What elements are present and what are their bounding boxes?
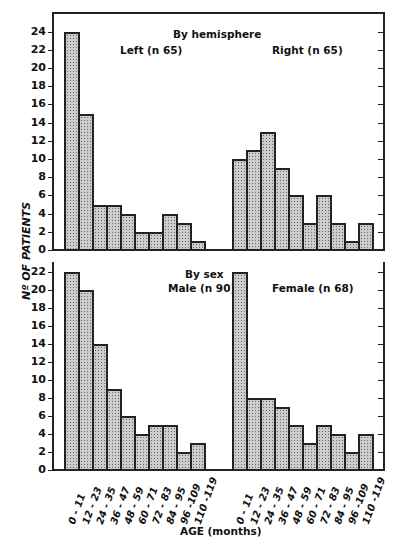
y-tick-mark xyxy=(48,141,53,142)
x-axis-label: AGE (months) xyxy=(180,525,262,537)
y-tick-mark xyxy=(48,32,53,33)
male-series-label: Male (n 90) xyxy=(168,282,235,294)
y-tick-mark xyxy=(48,104,53,105)
right-tick-mark xyxy=(378,470,383,471)
right-tick-mark xyxy=(378,434,383,435)
right-tick-mark xyxy=(378,452,383,453)
bar-sex-male-110-119 xyxy=(190,443,206,471)
right-tick-mark xyxy=(378,68,383,69)
right-tick-mark xyxy=(378,272,383,273)
y-tick-label: 4 xyxy=(20,208,46,219)
y-tick-label: 12 xyxy=(20,356,46,367)
y-tick-label: 22 xyxy=(20,266,46,277)
right-series-label: Right (n 65) xyxy=(272,44,343,56)
right-tick-mark xyxy=(378,141,383,142)
right-tick-mark xyxy=(378,50,383,51)
bottom-title: By sex xyxy=(185,268,224,280)
y-tick-label: 16 xyxy=(20,98,46,109)
y-tick-label: 20 xyxy=(20,62,46,73)
y-tick-mark xyxy=(48,398,53,399)
y-tick-mark xyxy=(48,214,53,215)
y-tick-label: 18 xyxy=(20,302,46,313)
y-tick-mark xyxy=(48,434,53,435)
right-tick-mark xyxy=(378,416,383,417)
y-tick-label: 6 xyxy=(20,189,46,200)
y-tick-mark xyxy=(48,362,53,363)
top-title: By hemisphere xyxy=(173,28,261,40)
y-tick-label: 20 xyxy=(20,284,46,295)
y-tick-mark xyxy=(48,86,53,87)
female-series-label: Female (n 68) xyxy=(272,282,354,294)
y-tick-mark xyxy=(48,68,53,69)
y-tick-label: 12 xyxy=(20,135,46,146)
right-tick-mark xyxy=(378,290,383,291)
y-tick-label: 14 xyxy=(20,338,46,349)
y-tick-label: 0 xyxy=(20,464,46,475)
right-tick-mark xyxy=(378,232,383,233)
right-tick-mark xyxy=(378,159,383,160)
right-tick-mark xyxy=(378,250,383,251)
bar-sex-female-110-119 xyxy=(358,434,374,471)
y-tick-label: 16 xyxy=(20,320,46,331)
y-tick-label: 14 xyxy=(20,117,46,128)
right-tick-mark xyxy=(378,104,383,105)
right-tick-mark xyxy=(378,177,383,178)
y-tick-mark xyxy=(48,470,53,471)
right-tick-mark xyxy=(378,362,383,363)
right-tick-mark xyxy=(378,195,383,196)
y-tick-mark xyxy=(48,123,53,124)
y-tick-mark xyxy=(48,452,53,453)
y-tick-label: 8 xyxy=(20,171,46,182)
y-tick-mark xyxy=(48,195,53,196)
y-tick-mark xyxy=(48,232,53,233)
y-tick-mark xyxy=(48,250,53,251)
bar-hemisphere-left-110-119 xyxy=(190,241,206,251)
y-tick-mark xyxy=(48,50,53,51)
right-tick-mark xyxy=(378,214,383,215)
right-tick-mark xyxy=(378,86,383,87)
y-tick-mark xyxy=(48,380,53,381)
y-tick-label: 24 xyxy=(20,26,46,37)
y-tick-mark xyxy=(48,177,53,178)
left-series-label: Left (n 65) xyxy=(120,44,182,56)
y-tick-label: 4 xyxy=(20,428,46,439)
y-tick-label: 8 xyxy=(20,392,46,403)
right-tick-mark xyxy=(378,326,383,327)
y-tick-mark xyxy=(48,326,53,327)
right-tick-mark xyxy=(378,123,383,124)
y-tick-mark xyxy=(48,290,53,291)
y-tick-label: 10 xyxy=(20,374,46,385)
right-tick-mark xyxy=(378,308,383,309)
y-tick-label: 22 xyxy=(20,44,46,55)
y-tick-label: 2 xyxy=(20,446,46,457)
y-tick-label: 2 xyxy=(20,226,46,237)
y-tick-mark xyxy=(48,272,53,273)
y-tick-label: 0 xyxy=(20,244,46,255)
right-tick-mark xyxy=(378,344,383,345)
y-tick-mark xyxy=(48,159,53,160)
right-tick-mark xyxy=(378,32,383,33)
bar-hemisphere-right-110-119 xyxy=(358,223,374,251)
y-tick-mark xyxy=(48,308,53,309)
right-tick-mark xyxy=(378,380,383,381)
y-tick-label: 10 xyxy=(20,153,46,164)
y-tick-label: 18 xyxy=(20,80,46,91)
right-tick-mark xyxy=(378,398,383,399)
y-tick-mark xyxy=(48,344,53,345)
y-tick-label: 6 xyxy=(20,410,46,421)
y-tick-mark xyxy=(48,416,53,417)
